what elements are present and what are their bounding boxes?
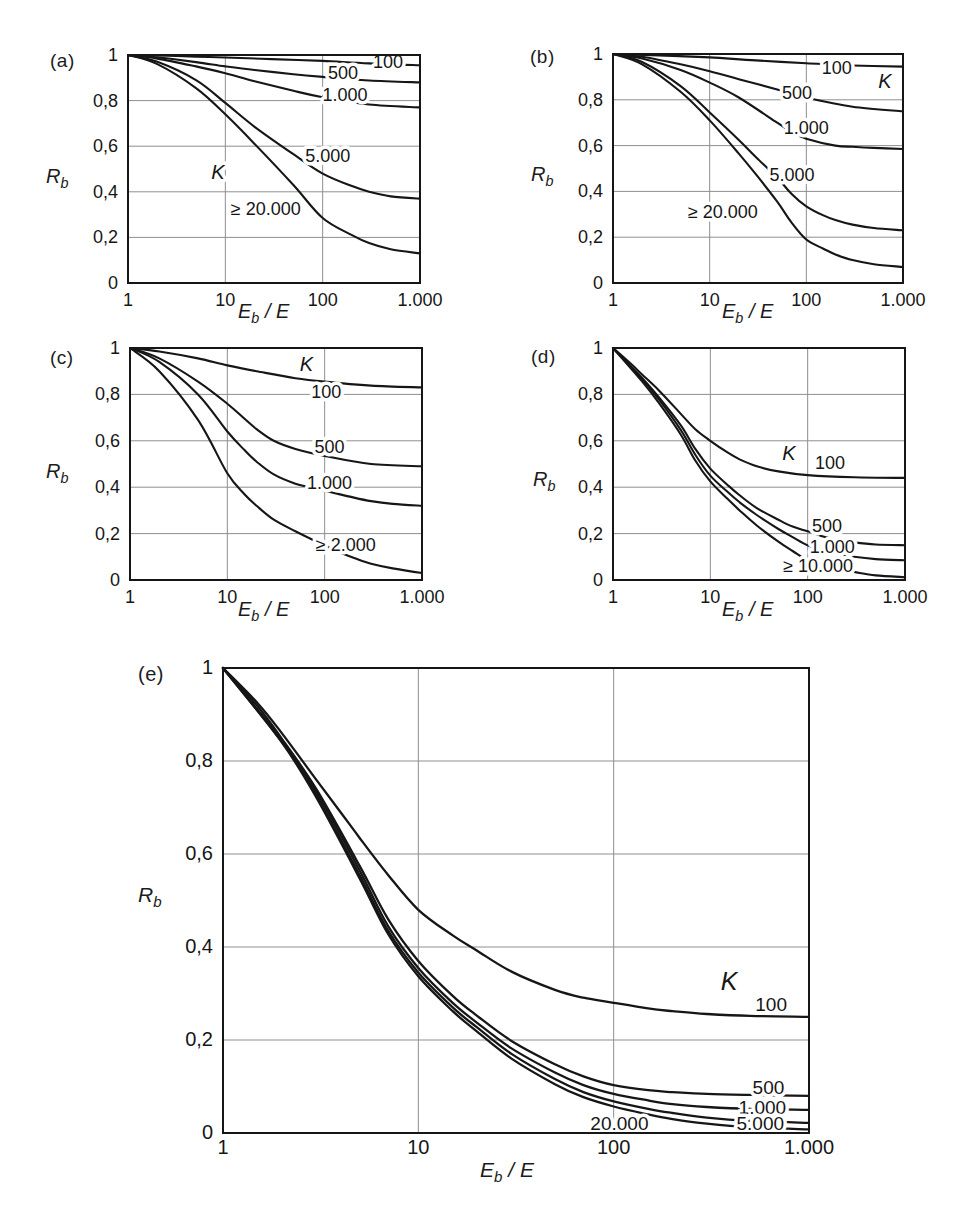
k-symbol-label: K xyxy=(721,967,739,995)
y-tick-label: 0,6 xyxy=(578,431,603,451)
panel-b-plot: 100K5001.0005.000≥ 20.00010,80,60,40,201… xyxy=(515,28,955,328)
curve-label-1000: 1.000 xyxy=(323,85,368,105)
curve-label-20000: ≥ 20.000 xyxy=(688,202,758,222)
k-symbol-label: K xyxy=(878,70,893,92)
y-tick-label: 0 xyxy=(110,570,120,590)
curve-k-20000 xyxy=(223,668,809,1129)
x-tick-label: 1.000 xyxy=(784,1136,834,1158)
y-tick-label: 0,6 xyxy=(95,431,120,451)
panel-d: K1005001.000≥ 10.00010,80,60,40,20110100… xyxy=(515,320,955,625)
curve-k-20000 xyxy=(128,55,420,253)
curve-label-500: 500 xyxy=(812,516,842,536)
curve-k-100 xyxy=(223,668,809,1017)
y-tick-label: 1 xyxy=(593,338,603,358)
curve-label-500: 500 xyxy=(314,437,344,457)
curve-label-5000: 5.000 xyxy=(769,165,814,185)
y-tick-label: 0 xyxy=(108,273,118,293)
figure-page: (a) (b) (c) (d) (e) Rb Rb Rb Rb Rb Eb / … xyxy=(0,0,965,1223)
y-tick-label: 0,6 xyxy=(93,136,118,156)
curve-k-5000 xyxy=(613,54,903,230)
plot-border xyxy=(128,55,420,283)
y-tick-label: 0,8 xyxy=(185,749,213,771)
y-tick-label: 0,6 xyxy=(185,842,213,864)
x-tick-label: 100 xyxy=(597,1136,630,1158)
plot-border xyxy=(613,54,903,283)
x-tick-label: 1 xyxy=(123,290,133,310)
panel-e: K1005001.0005.00020.00010,80,60,40,20110… xyxy=(125,640,855,1220)
curve-label-100: 100 xyxy=(311,382,341,402)
y-tick-label: 0 xyxy=(202,1121,213,1143)
curve-label-5000: 5.000 xyxy=(305,146,350,166)
panel-c-plot: K1005001.000≥ 2.00010,80,60,40,201101001… xyxy=(32,320,472,625)
plot-border xyxy=(613,348,905,580)
y-tick-label: 0 xyxy=(593,570,603,590)
x-tick-label: 1 xyxy=(608,290,618,310)
y-tick-label: 0 xyxy=(593,273,603,293)
curve-k-2000 xyxy=(130,348,422,573)
curve-k-100 xyxy=(130,348,422,387)
curve-k-100 xyxy=(613,348,905,478)
curve-label-20000: 20.000 xyxy=(590,1113,648,1134)
y-tick-label: 0,2 xyxy=(95,524,120,544)
x-tick-label: 1 xyxy=(125,587,135,607)
panel-e-plot: K1005001.0005.00020.00010,80,60,40,20110… xyxy=(125,640,855,1220)
x-tick-label: 10 xyxy=(407,1136,429,1158)
x-tick-label: 1 xyxy=(217,1136,228,1158)
k-symbol-label: K xyxy=(782,442,797,464)
curve-label-1000: 1.000 xyxy=(307,473,352,493)
curve-label-500: 500 xyxy=(753,1077,785,1098)
curve-k-500 xyxy=(223,668,809,1096)
y-tick-label: 1 xyxy=(110,338,120,358)
y-tick-label: 0,4 xyxy=(95,477,120,497)
x-tick-label: 10 xyxy=(215,290,235,310)
curve-label-500: 500 xyxy=(328,63,358,83)
x-tick-label: 1.000 xyxy=(399,587,444,607)
y-tick-label: 0,8 xyxy=(578,90,603,110)
y-tick-label: 0,4 xyxy=(578,181,603,201)
x-tick-label: 100 xyxy=(308,290,338,310)
curve-label-100: 100 xyxy=(755,994,787,1015)
y-tick-label: 0,2 xyxy=(185,1028,213,1050)
curve-label-1000: 1.000 xyxy=(784,118,829,138)
plot-border xyxy=(223,668,809,1133)
y-tick-label: 0,8 xyxy=(93,91,118,111)
x-tick-label: 100 xyxy=(310,587,340,607)
x-tick-label: 1.000 xyxy=(397,290,442,310)
curve-k-500 xyxy=(130,348,422,466)
x-tick-label: 10 xyxy=(700,290,720,310)
curve-k-1000 xyxy=(613,54,903,149)
curve-label-100: 100 xyxy=(822,58,852,78)
panel-c: K1005001.000≥ 2.00010,80,60,40,201101001… xyxy=(32,320,472,625)
panel-b: 100K5001.0005.000≥ 20.00010,80,60,40,201… xyxy=(515,28,955,328)
curve-label-20000: ≥ 20.000 xyxy=(231,199,301,219)
y-tick-label: 0,2 xyxy=(578,524,603,544)
x-tick-label: 1.000 xyxy=(880,290,925,310)
y-tick-label: 0,8 xyxy=(578,384,603,404)
y-tick-label: 1 xyxy=(202,656,213,678)
panel-a-plot: 1005001.0005.000K≥ 20.00010,80,60,40,201… xyxy=(30,28,470,328)
y-tick-label: 1 xyxy=(108,45,118,65)
y-tick-label: 0,4 xyxy=(578,477,603,497)
y-tick-label: 0,4 xyxy=(185,935,213,957)
curve-label-10000: ≥ 10.000 xyxy=(783,556,853,576)
curve-label-5000: 5.000 xyxy=(736,1113,784,1134)
x-tick-label: 1.000 xyxy=(882,587,927,607)
panel-d-plot: K1005001.000≥ 10.00010,80,60,40,20110100… xyxy=(515,320,955,625)
curve-label-100: 100 xyxy=(815,453,845,473)
x-tick-label: 100 xyxy=(793,587,823,607)
x-tick-label: 1 xyxy=(608,587,618,607)
x-tick-label: 10 xyxy=(217,587,237,607)
y-tick-label: 0,2 xyxy=(578,227,603,247)
y-tick-label: 0,4 xyxy=(93,182,118,202)
y-tick-label: 1 xyxy=(593,44,603,64)
k-symbol-label: K xyxy=(211,161,226,183)
curve-k-1000 xyxy=(130,348,422,506)
curve-label-500: 500 xyxy=(782,83,812,103)
x-tick-label: 10 xyxy=(700,587,720,607)
y-tick-label: 0,8 xyxy=(95,384,120,404)
curve-k-5000 xyxy=(223,668,809,1123)
y-tick-label: 0,2 xyxy=(93,227,118,247)
x-tick-label: 100 xyxy=(791,290,821,310)
k-symbol-label: K xyxy=(300,353,315,375)
y-tick-label: 0,6 xyxy=(578,136,603,156)
